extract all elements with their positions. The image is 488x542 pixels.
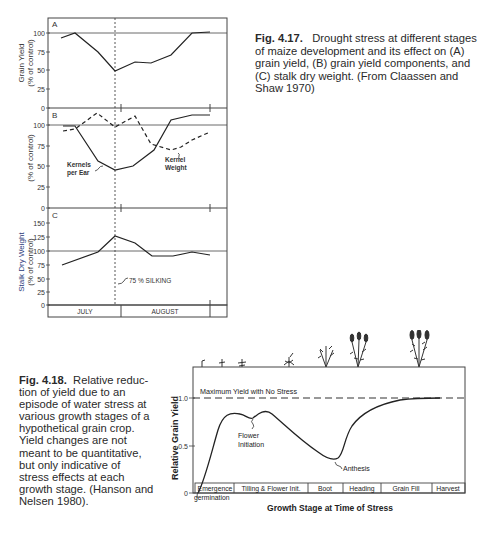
stage-tilling: Tilling & Flower Init. <box>241 485 300 493</box>
series-kernel-weight <box>63 113 210 150</box>
panel-b-letter: B <box>52 111 57 120</box>
stage-grain-fill: Grain Fill <box>392 485 420 492</box>
tick-c-0: 0 <box>41 302 45 309</box>
seedling-icon <box>202 360 205 367</box>
fig-4-18-chart: Emergence Tilling & Flower Init. Boot He… <box>0 330 488 542</box>
tick-c-150: 150 <box>33 220 45 227</box>
series-grain-yield <box>61 32 210 71</box>
tick-c-125: 125 <box>33 234 45 241</box>
tillering-plant-icon <box>318 346 334 367</box>
stage-boot: Boot <box>318 485 332 492</box>
month-july: JULY <box>77 308 93 315</box>
stage-heading: Heading <box>349 485 375 493</box>
label-germination: germination <box>194 494 230 502</box>
label-kernel-weight-2: Weight <box>165 164 187 172</box>
ylabel-grain-yield-unit: (% of control) <box>26 39 35 87</box>
tick-c-75: 75 <box>37 262 45 269</box>
tick-a-0: 0 <box>41 105 45 112</box>
ylabel-components-unit: (% of control) <box>26 134 35 182</box>
tick-b-50: 50 <box>37 163 45 170</box>
label-kernels-per-ear-1: Kernels <box>67 161 91 168</box>
label-silking: 75 % SILKING <box>129 277 171 284</box>
seedling-icon <box>238 359 246 367</box>
ylabel-relative-grain-yield: Relative Grain Yield <box>170 396 180 480</box>
mature-plant-icon <box>410 330 429 367</box>
fig-4-17-label: Fig. 4.17. <box>255 32 303 44</box>
ylabel-grain-yield: Grain Yield <box>17 43 26 82</box>
panel-c-letter: C <box>52 211 58 220</box>
stage-harvest: Harvest <box>436 485 460 492</box>
heading-plant-icon <box>350 332 368 367</box>
ytick-0: 0 <box>184 490 188 497</box>
label-anthesis: Anthesis <box>343 465 370 472</box>
young-plant-icon <box>284 353 294 367</box>
tick-b-0: 0 <box>41 205 45 212</box>
tick-a-50: 50 <box>37 67 45 74</box>
tick-a-75: 75 <box>37 49 45 56</box>
stage-emergence: Emergence <box>198 485 233 493</box>
label-kernels-per-ear-2: per Ear <box>67 169 90 177</box>
label-flower-initiation-2: Initiation <box>238 441 264 448</box>
tick-b-100: 100 <box>33 122 45 129</box>
ylabel-stalk-dry-weight: Stalk Dry Weight <box>17 232 26 292</box>
ylabel-stalk-unit: (% of control) <box>26 238 35 286</box>
tick-a-100: 100 <box>33 30 45 37</box>
tick-b-25: 25 <box>37 184 45 191</box>
label-max-yield: Maximum Yield with No Stress <box>200 387 297 396</box>
panel-a-letter: A <box>52 20 58 29</box>
seedling-icon <box>219 359 225 367</box>
fig-4-17-caption: Fig. 4.17. Drought stress at different s… <box>255 32 480 95</box>
label-flower-initiation-1: Flower <box>238 432 260 439</box>
tick-b-75: 75 <box>37 143 45 150</box>
xlabel-growth-stage: Growth Stage at Time of Stress <box>267 503 393 513</box>
tick-a-25: 25 <box>37 86 45 93</box>
tick-c-25: 25 <box>37 289 45 296</box>
tick-c-50: 50 <box>37 276 45 283</box>
tick-c-100: 100 <box>33 248 45 255</box>
series-relative-yield <box>198 398 440 493</box>
label-kernel-weight-1: Kernel <box>165 156 185 163</box>
series-stalk-dry-weight <box>62 236 210 265</box>
plant-stage-icons <box>202 330 429 367</box>
month-august: AUGUST <box>151 308 178 315</box>
